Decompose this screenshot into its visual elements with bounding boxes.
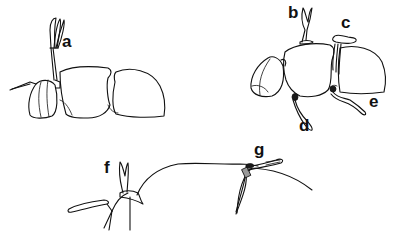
figure-2-abdomen	[339, 47, 386, 94]
figure-2-appendage-c	[333, 35, 357, 43]
diagram-canvas: a b c d e f g	[0, 0, 396, 234]
label-e: e	[369, 93, 378, 110]
figure-2-thorax	[284, 44, 334, 97]
figure-3-left-appendage	[68, 200, 108, 212]
label-f: f	[104, 159, 110, 176]
figure-1-head	[29, 80, 57, 118]
figure-2-antenna-b	[302, 8, 312, 42]
line-drawings	[0, 0, 396, 234]
label-b: b	[288, 4, 298, 21]
figure-1-abdomen	[113, 69, 165, 117]
figure-2-drawing	[251, 8, 385, 130]
label-d: d	[299, 117, 309, 134]
figure-1-drawing	[10, 18, 165, 118]
label-c: c	[341, 14, 350, 31]
figure-2-leg-e	[331, 92, 366, 115]
label-g: g	[254, 141, 264, 158]
label-a: a	[62, 33, 71, 50]
figure-1-thorax	[60, 67, 111, 118]
figure-3-antenna-f	[119, 162, 128, 193]
